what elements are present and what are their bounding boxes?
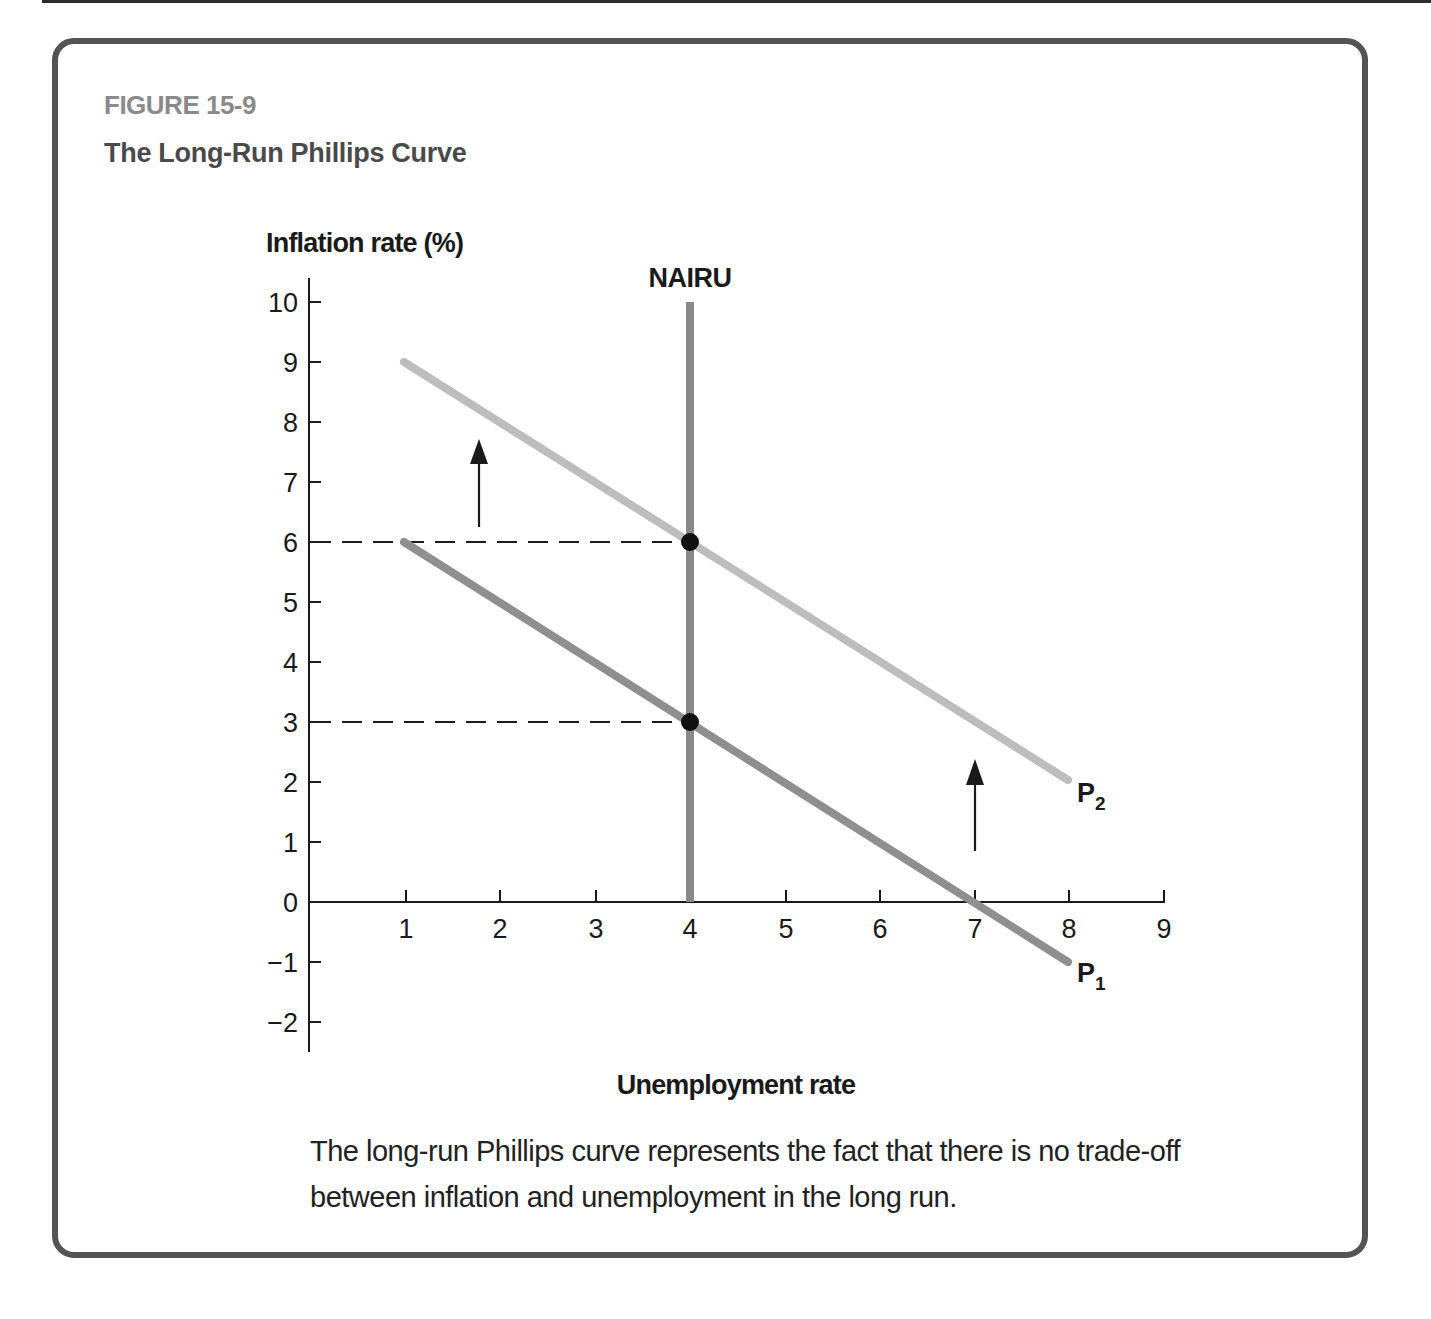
- y-tick-label: 4: [283, 648, 298, 678]
- x-tick-label: 9: [1156, 914, 1171, 944]
- phillips-curve-chart: Inflation rate (%) 10 9 8 7 6 5 4 3 2 1 …: [0, 0, 1431, 1319]
- p2-label: P2: [1077, 778, 1106, 814]
- p2-label-main: P: [1077, 778, 1095, 808]
- y-tick-label: 3: [283, 708, 298, 738]
- y-tick-label: −1: [267, 948, 298, 978]
- y-tick-labels: 10 9 8 7 6 5 4 3 2 1 0 −1 −2: [267, 288, 298, 1038]
- y-tick-label: 0: [283, 888, 298, 918]
- x-tick-label: 2: [492, 914, 507, 944]
- x-tick-label: 7: [967, 914, 982, 944]
- p1-label: P1: [1077, 958, 1106, 994]
- point-4-6: [681, 533, 699, 551]
- x-tick-label: 8: [1061, 914, 1076, 944]
- figure-caption: The long-run Phillips curve represents t…: [310, 1128, 1210, 1220]
- p2-label-sub: 2: [1095, 793, 1106, 814]
- x-ticks: [406, 890, 1164, 902]
- x-tick-label: 5: [778, 914, 793, 944]
- x-tick-label: 6: [872, 914, 887, 944]
- y-tick-label: 7: [283, 468, 298, 498]
- x-tick-label: 1: [398, 914, 413, 944]
- x-tick-label: 3: [588, 914, 603, 944]
- p1-label-sub: 1: [1095, 973, 1106, 994]
- p1-label-main: P: [1077, 958, 1095, 988]
- shift-arrow-left: [470, 439, 488, 527]
- y-ticks: [309, 302, 321, 1022]
- y-tick-label: −2: [267, 1008, 298, 1038]
- p2-curve: [404, 362, 1068, 780]
- x-axis-label: Unemployment rate: [617, 1070, 856, 1100]
- arrow-up-icon: [966, 759, 984, 785]
- x-tick-label: 4: [682, 914, 697, 944]
- p1-curve: [404, 542, 1068, 962]
- shift-arrow-right: [966, 759, 984, 851]
- y-tick-label: 8: [283, 408, 298, 438]
- y-tick-label: 2: [283, 768, 298, 798]
- y-tick-label: 5: [283, 588, 298, 618]
- nairu-label: NAIRU: [649, 263, 732, 293]
- y-tick-label: 6: [283, 528, 298, 558]
- y-tick-label: 10: [268, 288, 298, 318]
- arrow-up-icon: [470, 439, 488, 464]
- x-tick-labels: 1 2 3 4 5 6 7 8 9: [398, 914, 1171, 944]
- y-tick-label: 1: [283, 828, 298, 858]
- y-axis-label: Inflation rate (%): [266, 228, 463, 258]
- y-tick-label: 9: [283, 348, 298, 378]
- point-4-3: [681, 713, 699, 731]
